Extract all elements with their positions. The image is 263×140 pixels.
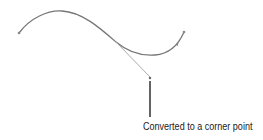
direction-handle-line [116,42,150,77]
callout-caption: Converted to a corner point [143,120,252,132]
bezier-diagram [0,0,263,140]
bezier-curve-segment-2 [116,32,184,55]
direction-point [149,77,151,79]
anchor-point-end [183,31,186,34]
bezier-curve-segment-1 [19,11,116,42]
anchor-point-start [18,32,21,35]
